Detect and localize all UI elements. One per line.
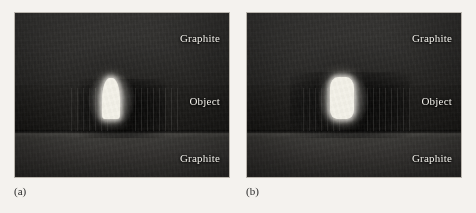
panel-a-band-seam xyxy=(15,130,229,137)
panel-a-object-band xyxy=(15,85,229,133)
panel-b-label-lower-graphite: Graphite xyxy=(412,153,452,164)
panel-b-label-upper-graphite: Graphite xyxy=(412,33,452,44)
panel-a-caption: (a) xyxy=(14,186,26,197)
panel-b-caption: (b) xyxy=(246,186,259,197)
panel-a-label-lower-graphite: Graphite xyxy=(180,153,220,164)
panel-b-band-seam xyxy=(247,130,461,137)
panel-b-object-band xyxy=(247,85,461,133)
radiograph-panel-a: Graphite Object Graphite xyxy=(14,12,230,178)
panel-b-upper-graphite-band xyxy=(247,13,461,85)
radiograph-figure: Graphite Object Graphite (a) Graphite Ob… xyxy=(0,0,476,213)
panel-b-label-object: Object xyxy=(421,96,452,107)
panel-a-upper-graphite-band xyxy=(15,13,229,85)
panel-a-label-object: Object xyxy=(189,96,220,107)
radiograph-panel-b: Graphite Object Graphite xyxy=(246,12,462,178)
panel-a-label-upper-graphite: Graphite xyxy=(180,33,220,44)
